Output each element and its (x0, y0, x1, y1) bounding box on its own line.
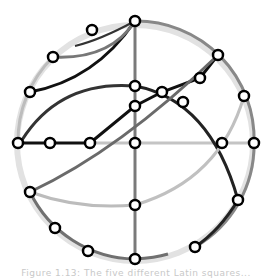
node-r1 (217, 138, 227, 148)
node-top (130, 16, 140, 26)
node-u3 (25, 87, 35, 97)
node-ll3 (83, 246, 93, 256)
rim-arc-mid-right-bottom (195, 143, 254, 247)
node-ll1 (25, 187, 35, 197)
node-u1 (87, 25, 97, 35)
node-l1 (45, 138, 55, 148)
curve-ll1-to-c3 (30, 192, 135, 206)
node-c1 (130, 81, 140, 91)
node-lr1 (233, 195, 243, 205)
curve-ll1-to-x3 (30, 55, 218, 192)
node-c3 (130, 200, 140, 210)
node-x2 (195, 73, 205, 83)
circular-graph-diagram (0, 0, 272, 268)
node-x3 (213, 50, 223, 60)
node-bottom (130, 254, 140, 264)
path-l2-to-x3 (90, 55, 218, 143)
node-rs (239, 91, 249, 101)
node-x4 (178, 97, 188, 107)
figure-caption: Figure 1.13: The five different Latin sq… (0, 268, 272, 278)
curve-c1-to-left (22, 85, 135, 140)
node-l2 (85, 138, 95, 148)
node-x1 (157, 87, 167, 97)
node-ll2 (50, 223, 60, 233)
node-right (249, 138, 259, 148)
node-lr2 (190, 242, 200, 252)
node-u2 (48, 52, 58, 62)
node-center (130, 138, 140, 148)
node-left (13, 138, 23, 148)
node-c2 (130, 101, 140, 111)
